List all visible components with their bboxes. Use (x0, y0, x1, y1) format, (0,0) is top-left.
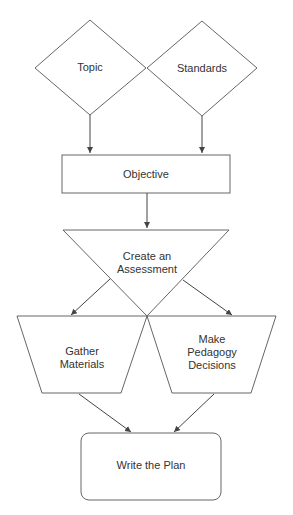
pedagogy-label: Make Pedagogy Decisions (162, 333, 262, 372)
arrow-assessment-pedagogy (183, 280, 232, 315)
gather-label-line1: Gather (32, 345, 132, 358)
arrow-gather-plan (79, 394, 131, 432)
pedagogy-label-line1: Make (162, 333, 262, 346)
arrow-assessment-gather (71, 279, 110, 315)
assessment-label-line2: Assessment (97, 263, 197, 276)
arrow-pedagogy-plan (174, 394, 214, 432)
plan-label: Write the Plan (81, 459, 221, 472)
topic-label: Topic (50, 61, 130, 74)
pedagogy-label-line2: Pedagogy (162, 346, 262, 359)
assessment-label-line1: Create an (97, 250, 197, 263)
gather-label: Gather Materials (32, 345, 132, 371)
standards-label: Standards (162, 62, 242, 75)
pedagogy-label-line3: Decisions (162, 359, 262, 372)
objective-label: Objective (62, 168, 230, 181)
gather-label-line2: Materials (32, 358, 132, 371)
assessment-label: Create an Assessment (97, 250, 197, 276)
